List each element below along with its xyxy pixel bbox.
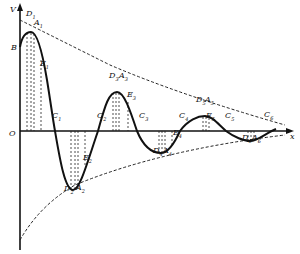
- diagram-canvas: [0, 0, 300, 254]
- point-label-e2: E2: [83, 154, 92, 164]
- y-axis-label: V: [10, 6, 16, 14]
- point-label-e1: E1: [40, 60, 49, 70]
- point-label-c2: C2: [97, 112, 106, 122]
- y-axis-arrow-icon: [17, 3, 23, 11]
- point-label-a2: A2: [76, 184, 85, 194]
- point-label-c6: C6: [264, 111, 273, 121]
- damped-oscillation-diagram: V x O B D1A1E1C1E2D2A2C2D3A3E3C3E4D4A4C4…: [0, 0, 300, 254]
- point-label-a4: A4: [163, 147, 172, 157]
- point-label-e4: E4: [173, 129, 182, 139]
- point-label-c4: C4: [179, 112, 188, 122]
- point-label-c5: C5: [225, 112, 234, 122]
- point-label-a3: A3: [119, 72, 128, 82]
- point-label-a1: A1: [34, 19, 43, 29]
- point-label-a5: A5: [205, 96, 214, 106]
- point-label-c1: C1: [52, 112, 61, 122]
- point-label-e3: E3: [127, 91, 136, 101]
- upper-envelope: [20, 20, 285, 125]
- point-label-d3: D3: [109, 72, 119, 82]
- point-label-e5: E5: [206, 112, 215, 122]
- point-label-a6: A6: [252, 134, 261, 144]
- x-axis-label: x: [290, 133, 295, 141]
- point-label-c3: C3: [139, 112, 148, 122]
- point-label-d6: D6: [242, 134, 252, 144]
- point-label-d2: D2: [64, 185, 74, 195]
- origin-label: O: [9, 130, 16, 138]
- start-point-label: B: [11, 44, 17, 52]
- point-label-d4: D4: [153, 147, 163, 157]
